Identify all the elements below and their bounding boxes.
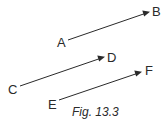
point-label-e: E <box>48 97 57 112</box>
vector-ef-line <box>59 74 137 101</box>
point-label-d: D <box>107 50 116 65</box>
figure-caption: Fig. 13.3 <box>72 105 119 119</box>
vector-ab: A B <box>57 4 161 50</box>
point-label-b: B <box>152 4 161 19</box>
point-label-a: A <box>57 35 66 50</box>
vector-ab-arrowhead <box>142 11 150 17</box>
vector-cd-line <box>20 59 100 87</box>
vector-cd: C D <box>8 50 116 97</box>
point-label-f: F <box>145 63 153 78</box>
vector-diagram: A B C D E F Fig. 13.3 <box>0 0 166 125</box>
vector-cd-arrowhead <box>97 56 105 62</box>
point-label-c: C <box>8 82 17 97</box>
vector-ef-arrowhead <box>134 71 142 77</box>
vector-ab-line <box>68 14 145 41</box>
